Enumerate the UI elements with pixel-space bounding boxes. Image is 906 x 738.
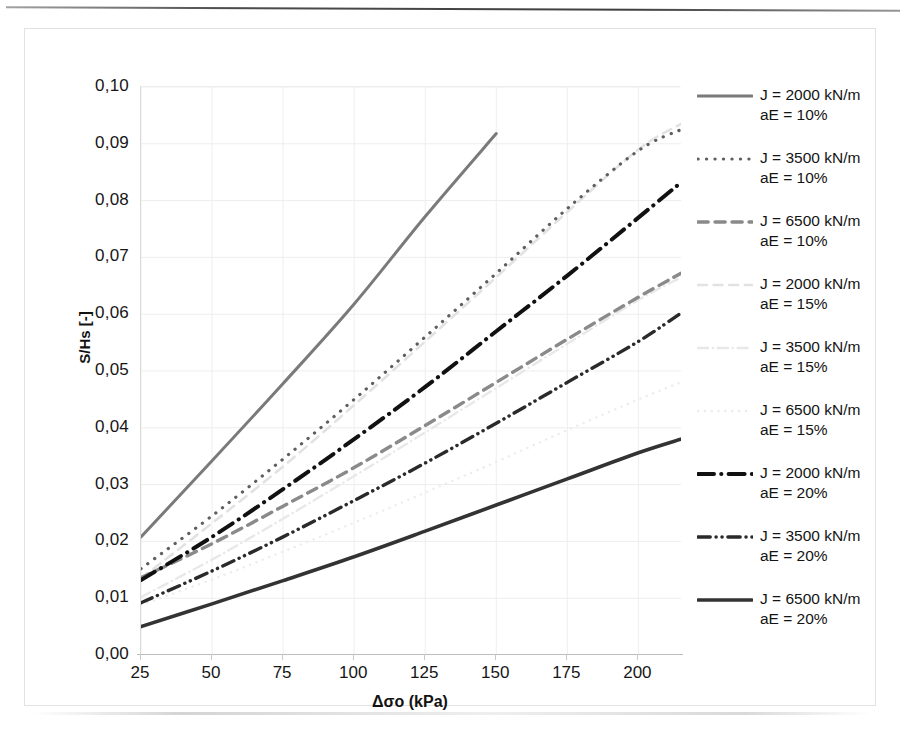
y-tick-label: 0,01 xyxy=(67,587,129,607)
page-bottom-smudge xyxy=(30,712,870,715)
legend-label-line2: aE = 20% xyxy=(760,483,860,503)
legend-swatch-line-icon xyxy=(697,276,753,294)
y-tick-label: 0,02 xyxy=(67,530,129,550)
y-tick-label: 0,03 xyxy=(67,474,129,494)
x-axis-line xyxy=(137,654,683,655)
legend-label: J = 6500 kN/maE = 20% xyxy=(760,589,860,629)
x-tick-mark xyxy=(566,654,567,660)
legend-label-line1: J = 6500 kN/m xyxy=(760,212,860,229)
legend-label-line2: aE = 20% xyxy=(760,609,860,629)
x-tick-mark xyxy=(637,654,638,660)
legend-label-line1: J = 3500 kN/m xyxy=(760,149,860,166)
legend-label-line2: aE = 15% xyxy=(760,294,860,314)
legend-swatch-line-icon xyxy=(697,402,753,420)
legend-label-line1: J = 2000 kN/m xyxy=(760,464,860,481)
y-tick-label: 0,09 xyxy=(67,133,129,153)
legend-swatch-line-icon xyxy=(697,591,753,609)
legend-item[interactable]: J = 2000 kN/maE = 15% xyxy=(697,274,906,320)
legend-label-line1: J = 2000 kN/m xyxy=(760,86,860,103)
legend-label-line1: J = 3500 kN/m xyxy=(760,338,860,355)
legend-item[interactable]: J = 6500 kN/maE = 20% xyxy=(697,589,906,635)
y-tick-label: 0,04 xyxy=(67,417,129,437)
legend-label-line1: J = 6500 kN/m xyxy=(760,590,860,607)
series-line xyxy=(141,130,681,569)
series-line xyxy=(141,182,681,580)
x-tick-label: 25 xyxy=(131,663,150,683)
series-line xyxy=(141,382,681,605)
legend-swatch-line-icon xyxy=(697,465,753,483)
legend-label: J = 6500 kN/maE = 10% xyxy=(760,211,860,251)
x-tick-mark xyxy=(495,654,496,660)
x-tick-label: 125 xyxy=(410,663,438,683)
page-top-rule xyxy=(6,6,900,11)
legend-item[interactable]: J = 6500 kN/maE = 15% xyxy=(697,400,906,446)
legend-item[interactable]: J = 3500 kN/maE = 10% xyxy=(697,148,906,194)
legend-label: J = 2000 kN/maE = 20% xyxy=(760,463,860,503)
legend-label-line2: aE = 10% xyxy=(760,231,860,251)
legend-label-line1: J = 6500 kN/m xyxy=(760,401,860,418)
y-tick-label: 0,10 xyxy=(67,76,129,96)
legend-label-line2: aE = 20% xyxy=(760,546,860,566)
x-tick-mark xyxy=(211,654,212,660)
y-tick-label: 0,00 xyxy=(67,644,129,664)
legend-label: J = 6500 kN/maE = 15% xyxy=(760,400,860,440)
legend-label: J = 3500 kN/maE = 10% xyxy=(760,148,860,188)
x-tick-label: 150 xyxy=(481,663,509,683)
x-axis-title: Δσo (kPa) xyxy=(140,693,680,711)
x-tick-label: 175 xyxy=(552,663,580,683)
x-tick-mark xyxy=(140,654,141,660)
x-tick-mark xyxy=(282,654,283,660)
legend-item[interactable]: J = 2000 kN/maE = 10% xyxy=(697,85,906,131)
x-tick-label: 75 xyxy=(273,663,292,683)
legend-label: J = 3500 kN/maE = 20% xyxy=(760,526,860,566)
x-tick-label: 50 xyxy=(202,663,221,683)
y-axis-title: S/Hs [-] xyxy=(76,273,93,403)
series-line xyxy=(141,313,681,603)
legend-label-line1: J = 2000 kN/m xyxy=(760,275,860,292)
legend-label-line2: aE = 15% xyxy=(760,420,860,440)
x-tick-label: 100 xyxy=(339,663,367,683)
legend-label: J = 3500 kN/maE = 15% xyxy=(760,337,860,377)
y-tick-label: 0,07 xyxy=(67,246,129,266)
legend-swatch-line-icon xyxy=(697,339,753,357)
chart-legend: J = 2000 kN/maE = 10%J = 3500 kN/maE = 1… xyxy=(697,85,906,652)
x-tick-mark xyxy=(424,654,425,660)
legend-swatch-line-icon xyxy=(697,87,753,105)
legend-label-line1: J = 3500 kN/m xyxy=(760,527,860,544)
y-axis-tick-labels: 0,000,010,020,030,040,050,060,070,080,09… xyxy=(63,29,129,729)
legend-item[interactable]: J = 3500 kN/maE = 20% xyxy=(697,526,906,572)
legend-swatch-line-icon xyxy=(697,150,753,168)
legend-label: J = 2000 kN/maE = 15% xyxy=(760,274,860,314)
plot-area xyxy=(140,86,680,654)
legend-swatch-line-icon xyxy=(697,213,753,231)
legend-item[interactable]: J = 6500 kN/maE = 10% xyxy=(697,211,906,257)
legend-label-line2: aE = 15% xyxy=(760,357,860,377)
gridlines xyxy=(141,87,681,655)
series-line xyxy=(141,277,681,597)
legend-label-line2: aE = 10% xyxy=(760,168,860,188)
legend-swatch-line-icon xyxy=(697,528,753,546)
x-tick-mark xyxy=(353,654,354,660)
y-tick-label: 0,08 xyxy=(67,190,129,210)
legend-label-line2: aE = 10% xyxy=(760,105,860,125)
x-tick-label: 200 xyxy=(623,663,651,683)
series-line xyxy=(141,134,496,537)
legend-item[interactable]: J = 3500 kN/maE = 15% xyxy=(697,337,906,383)
plot-svg xyxy=(141,87,681,655)
legend-label: J = 2000 kN/maE = 10% xyxy=(760,85,860,125)
chart-container: 0,000,010,020,030,040,050,060,070,080,09… xyxy=(24,28,876,706)
legend-item[interactable]: J = 2000 kN/maE = 20% xyxy=(697,463,906,509)
